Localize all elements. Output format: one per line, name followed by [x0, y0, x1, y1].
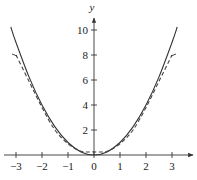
y-tick-label: 10: [77, 24, 89, 36]
chart: y−3−2−10123246810: [0, 0, 197, 180]
y-tick-label: 2: [83, 124, 89, 136]
x-tick-label: 3: [169, 160, 175, 172]
x-tick-label: −2: [36, 160, 48, 172]
x-tick-label: 1: [117, 160, 123, 172]
axes: [4, 18, 193, 155]
y-tick-label: 4: [83, 99, 89, 111]
x-tick-label: 0: [91, 160, 97, 172]
x-tick-label: −1: [62, 160, 74, 172]
y-axis-label: y: [89, 1, 95, 13]
x-tick-label: 2: [143, 160, 149, 172]
y-tick-label: 6: [83, 74, 89, 86]
x-tick-label: −3: [10, 160, 22, 172]
labels: y−3−2−10123246810: [10, 1, 175, 172]
chart-svg: y−3−2−10123246810: [0, 0, 197, 180]
y-tick-label: 8: [83, 49, 89, 61]
